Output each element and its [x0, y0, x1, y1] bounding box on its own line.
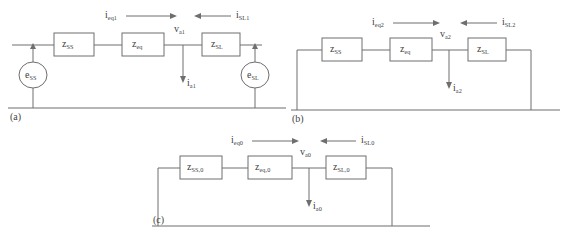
z-ss-0-box-label-c: zSS,0: [187, 162, 203, 172]
z-ss-box-label-b: zSS: [330, 44, 342, 54]
panel-c-schematic: [152, 138, 430, 226]
z-sl-box-label-b: zSL: [477, 44, 489, 54]
z-eq-box-a: [122, 33, 164, 56]
circuit-schematic-canvas: [0, 0, 565, 236]
e-ss-source-label: eSS: [25, 70, 37, 80]
z-ss-box-label-a: zSS: [62, 39, 74, 49]
i-eq0-label: ieq0: [231, 135, 243, 145]
e-ss-polarity-arrow: [30, 43, 36, 49]
i-eq2-label: ieq2: [372, 17, 384, 27]
i-eq1-arrowhead: [170, 13, 177, 19]
z-eq-box-label-a: zeq: [132, 39, 143, 49]
e-sl-source-label: eSL: [247, 70, 259, 80]
i-eq1-label: ieq1: [105, 10, 117, 20]
i-a0-arrowhead: [306, 200, 312, 207]
z-eq-box-b: [390, 38, 432, 61]
i-a1-arrowhead: [180, 76, 186, 83]
i-eq0-arrowhead: [292, 138, 299, 144]
z-eq-0-box-label-c: zeq,0: [255, 162, 270, 172]
panel-b-caption: (b): [292, 114, 304, 124]
i-sl0-label: iSL0: [361, 135, 374, 145]
i-sl1-arrowhead: [194, 13, 201, 19]
i-sl0-arrowhead: [320, 138, 327, 144]
i-eq2-arrowhead: [433, 20, 440, 26]
i-a0-label: ia0: [313, 201, 322, 211]
z-sl-box-label-a: zSL: [211, 39, 223, 49]
i-a1-label: ia1: [187, 78, 196, 88]
v-a2-label: va2: [440, 29, 451, 39]
i-a2-arrowhead: [446, 82, 452, 89]
z-sl-0-box-label-c: zSL,0: [333, 162, 350, 172]
panel-a-caption: (a): [10, 112, 21, 122]
i-a2-label: ia2: [453, 83, 462, 93]
z-eq-box-label-b: zeq: [400, 44, 411, 54]
sequence-network-figure: zSS zeq zSL eSS eSL ieq1 iSL1 ia1 va1 (a…: [0, 0, 565, 236]
z-ss-box-b: [322, 38, 362, 61]
z-ss-box-a: [54, 33, 94, 56]
i-sl2-label: iSL2: [502, 17, 515, 27]
v-a0-label: va0: [300, 147, 311, 157]
e-sl-polarity-arrow: [252, 43, 258, 49]
panel-b-schematic: [291, 20, 560, 110]
panel-c-caption: (c): [153, 215, 164, 225]
i-sl1-label: iSL1: [236, 10, 249, 20]
v-a1-label: va1: [174, 24, 185, 34]
i-sl2-arrowhead: [460, 20, 467, 26]
panel-a-schematic: [8, 13, 286, 108]
